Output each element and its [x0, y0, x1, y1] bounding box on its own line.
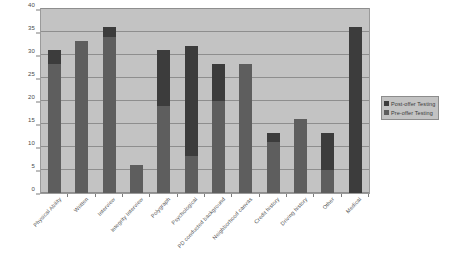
bar-segment-pre-offer — [294, 119, 307, 193]
bar-group — [130, 9, 143, 193]
bar-segment-pre-offer — [267, 142, 280, 193]
bar-group — [48, 9, 61, 193]
x-axis-tick-label: Physical Ability — [32, 196, 62, 228]
bar-segment-post-offer — [321, 133, 334, 170]
chart-legend: Post-offer TestingPre-offer Testing — [381, 96, 439, 120]
bar-segment-pre-offer — [130, 165, 143, 193]
y-axis-tick-label: 20 — [28, 94, 35, 100]
bar-segment-post-offer — [103, 27, 116, 36]
legend-swatch-icon — [384, 101, 389, 106]
x-axis-labels: Physical AbilityWrittenInterviewIntegrit… — [40, 196, 370, 272]
y-axis-tick-label: 5 — [31, 163, 35, 169]
bar-segment-pre-offer — [48, 64, 61, 193]
bar-group — [294, 9, 307, 193]
x-axis-tick-label: Other — [321, 196, 335, 211]
y-axis-tick-label: 0 — [31, 186, 35, 192]
bar-group — [349, 9, 362, 193]
bar-segment-pre-offer — [103, 37, 116, 193]
bar-group — [103, 9, 116, 193]
x-axis-tick-label: Polygraph — [149, 196, 171, 219]
y-axis-tick-label: 30 — [28, 48, 35, 54]
x-axis-tick-label: Driving history — [279, 196, 308, 227]
y-axis-tick-label: 15 — [28, 117, 35, 123]
bar-group — [75, 9, 88, 193]
x-axis-tick-label: Medical — [345, 196, 363, 214]
bar-segment-pre-offer — [185, 156, 198, 193]
y-axis-tick-label: 40 — [28, 2, 35, 8]
x-axis-tick-label: PD conducted background — [176, 196, 226, 249]
bar-segment-pre-offer — [75, 41, 88, 193]
x-axis-tick-label: Credit history — [253, 196, 280, 225]
y-axis-tick-label: 35 — [28, 25, 35, 31]
bar-group — [185, 9, 198, 193]
bar-segment-post-offer — [48, 50, 61, 64]
bar-group — [157, 9, 170, 193]
y-axis-tick-label: 25 — [28, 71, 35, 77]
bar-group — [239, 9, 252, 193]
bar-group — [212, 9, 225, 193]
legend-label: Post-offer Testing — [391, 101, 435, 107]
bar-segment-post-offer — [212, 64, 225, 101]
bars-layer — [41, 9, 369, 193]
legend-swatch-icon — [384, 110, 389, 115]
y-axis-tick-label: 10 — [28, 140, 35, 146]
bar-segment-pre-offer — [157, 106, 170, 193]
bar-segment-pre-offer — [212, 101, 225, 193]
bar-segment-pre-offer — [321, 170, 334, 193]
x-axis-tick-label: Interview — [97, 196, 117, 217]
bar-segment-post-offer — [349, 27, 362, 193]
bar-group — [267, 9, 280, 193]
stacked-bar-chart: 0510152025303540 Physical AbilityWritten… — [0, 0, 461, 272]
bar-group — [321, 9, 334, 193]
bar-segment-pre-offer — [239, 64, 252, 193]
bar-segment-post-offer — [185, 46, 198, 156]
legend-item[interactable]: Post-offer Testing — [384, 99, 435, 108]
y-axis: 0510152025303540 — [0, 8, 40, 194]
legend-item[interactable]: Pre-offer Testing — [384, 108, 435, 117]
x-axis-tick-label: Psychological — [171, 196, 199, 226]
bar-segment-post-offer — [157, 50, 170, 105]
legend-label: Pre-offer Testing — [391, 110, 433, 116]
x-axis-tick-label: Written — [73, 196, 90, 213]
bar-segment-post-offer — [267, 133, 280, 142]
plot-area — [40, 8, 370, 194]
